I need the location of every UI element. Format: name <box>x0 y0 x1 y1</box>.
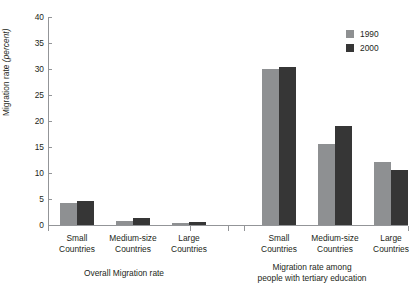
legend: 1990 2000 <box>346 27 379 55</box>
bar <box>116 221 133 225</box>
x-category-label-line2: Countries <box>305 244 365 255</box>
legend-swatch-icon-2000 <box>346 44 354 52</box>
x-category-label-line2: Countries <box>249 244 309 255</box>
x-tick-mark <box>228 226 229 231</box>
x-category-label: LargeCountries <box>159 233 219 255</box>
panel-caption-tertiary: Migration rate amongpeople with tertiary… <box>212 262 412 284</box>
bar <box>133 218 150 225</box>
legend-label-1990: 1990 <box>360 30 379 38</box>
migration-rate-bar-chart: Migration rate (percent) 051015202530354… <box>0 0 415 297</box>
y-tick-label: 5 <box>20 195 44 203</box>
legend-item-2000: 2000 <box>346 41 379 55</box>
x-tick-mark <box>48 226 49 231</box>
bar <box>77 201 94 225</box>
bar <box>335 126 352 225</box>
x-category-label: SmallCountries <box>47 233 107 255</box>
x-category-label-line2: Countries <box>159 244 219 255</box>
x-category-label: Medium-sizeCountries <box>103 233 163 255</box>
x-category-label-line1: Large <box>159 233 219 244</box>
x-tick-mark <box>408 226 409 231</box>
legend-swatch-icon-1990 <box>346 30 354 38</box>
panel-caption-tertiary-line1: Migration rate among <box>212 262 412 273</box>
x-category-label: LargeCountries <box>361 233 415 255</box>
panel-caption-overall: Overall Migration rate <box>24 268 224 279</box>
bar <box>262 69 279 225</box>
x-category-label-line2: Countries <box>47 244 107 255</box>
y-tick-label: 35 <box>20 39 44 47</box>
legend-item-1990: 1990 <box>346 27 379 41</box>
bar <box>318 144 335 225</box>
legend-label-2000: 2000 <box>360 44 379 52</box>
x-category-label: SmallCountries <box>249 233 309 255</box>
x-category-label: Medium-sizeCountries <box>305 233 365 255</box>
x-category-label-line1: Medium-size <box>305 233 365 244</box>
y-tick-label: 30 <box>20 65 44 73</box>
bar <box>391 170 408 225</box>
bar <box>279 67 296 225</box>
y-tick-label: 25 <box>20 91 44 99</box>
bar <box>60 203 77 225</box>
y-tick-label: 10 <box>20 169 44 177</box>
y-tick-label: 40 <box>20 13 44 21</box>
y-axis-title: Migration rate (percent) <box>2 0 11 116</box>
bar <box>374 162 391 225</box>
panel-caption-overall-line1: Overall Migration rate <box>24 268 224 279</box>
x-category-label-line1: Medium-size <box>103 233 163 244</box>
y-tick-label: 15 <box>20 143 44 151</box>
x-category-label-line2: Countries <box>361 244 415 255</box>
x-category-label-line1: Small <box>249 233 309 244</box>
y-axis-title-unit: (percent) <box>2 28 11 62</box>
y-axis-title-main: Migration rate <box>2 62 11 116</box>
x-category-label-line1: Small <box>47 233 107 244</box>
x-category-label-line2: Countries <box>103 244 163 255</box>
panel-caption-tertiary-line2: people with tertiary education <box>212 273 412 284</box>
bar <box>172 223 189 225</box>
x-tick-mark <box>190 226 191 231</box>
bar <box>189 222 206 225</box>
y-tick-label: 20 <box>20 117 44 125</box>
x-category-label-line1: Large <box>361 233 415 244</box>
x-tick-mark <box>244 226 245 231</box>
y-tick-label: 0 <box>20 221 44 229</box>
